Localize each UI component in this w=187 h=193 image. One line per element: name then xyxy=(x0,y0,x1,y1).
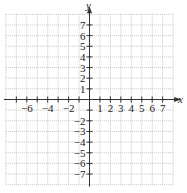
x-tick-label: −4 xyxy=(42,102,54,114)
x-tick-label: 4 xyxy=(129,102,135,114)
x-tick-labels: −6−4−21234567 xyxy=(21,102,166,114)
x-tick-label: 5 xyxy=(139,102,145,114)
x-tick-label: 2 xyxy=(108,102,114,114)
x-tick-label: 1 xyxy=(97,102,103,114)
y-tick-label: −7 xyxy=(74,168,86,180)
x-tick-label: 3 xyxy=(118,102,124,114)
coordinate-plane: −6−4−21234567 7654321−2−3−4−5−6−7 x y xyxy=(0,0,187,193)
x-axis-label: x xyxy=(177,93,183,105)
axes xyxy=(4,6,181,186)
x-tick-label: −2 xyxy=(63,102,75,114)
y-tick-label: 1 xyxy=(80,83,86,95)
x-tick-label: 7 xyxy=(160,102,166,114)
x-tick-label: 6 xyxy=(149,102,155,114)
y-axis-label: y xyxy=(85,0,91,11)
x-tick-label: −6 xyxy=(21,102,33,114)
